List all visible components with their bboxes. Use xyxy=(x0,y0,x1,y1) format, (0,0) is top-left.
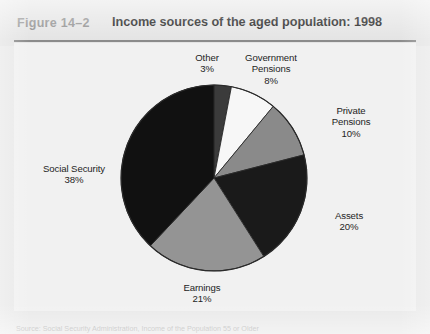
pie-label-government-pensions-name-line1: Government xyxy=(228,52,314,63)
pie-label-private-pensions: Private Pensions 10% xyxy=(316,105,386,139)
figure-container: Figure 14–2 Income sources of the aged p… xyxy=(0,0,430,334)
pie-label-government-pensions-name-line2: Pensions xyxy=(228,63,314,74)
pie-label-earnings-name: Earnings xyxy=(166,282,238,293)
source-note: Source: Social Security Administration, … xyxy=(16,324,259,333)
pie-label-social-security: Social Security 38% xyxy=(26,163,122,186)
pie-label-earnings-value: 21% xyxy=(166,293,238,304)
pie-chart xyxy=(0,0,430,311)
pie-label-private-pensions-name-line1: Private xyxy=(316,105,386,116)
pie-slice-group xyxy=(121,85,307,271)
pie-label-earnings: Earnings 21% xyxy=(166,282,238,305)
pie-label-assets-value: 20% xyxy=(320,221,378,232)
pie-label-social-security-value: 38% xyxy=(26,174,122,185)
pie-label-government-pensions-value: 8% xyxy=(228,75,314,86)
pie-label-assets: Assets 20% xyxy=(320,210,378,233)
pie-label-social-security-name: Social Security xyxy=(26,163,122,174)
pie-label-other-name: Other xyxy=(186,52,228,63)
pie-label-assets-name: Assets xyxy=(320,210,378,221)
pie-label-government-pensions: Government Pensions 8% xyxy=(228,52,314,86)
pie-label-other-value: 3% xyxy=(186,63,228,74)
pie-label-private-pensions-value: 10% xyxy=(316,128,386,139)
pie-label-private-pensions-name-line2: Pensions xyxy=(316,116,386,127)
pie-label-other: Other 3% xyxy=(186,52,228,75)
